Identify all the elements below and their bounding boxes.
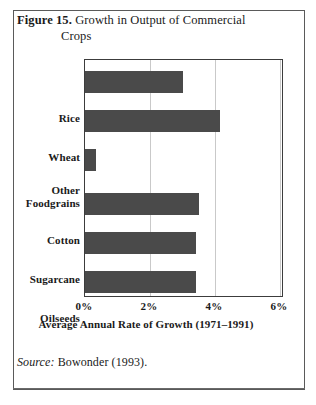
gridline-6pct — [280, 60, 281, 296]
source-citation: Bowonder (1993). — [58, 355, 148, 369]
xtick-label-0: 0% — [64, 300, 104, 312]
plot-area — [84, 59, 283, 297]
xtick-label-4: 4% — [194, 300, 234, 312]
bar-rice — [85, 71, 183, 93]
gridline-4pct — [215, 60, 216, 296]
bar-wheat — [85, 110, 220, 132]
figure-caption: Figure 15. Growth in Output of Commercia… — [17, 12, 275, 44]
category-label-sugarcane: Sugarcane — [0, 273, 80, 286]
bar-other-foodgrains — [85, 149, 96, 171]
xtick-label-2: 2% — [129, 300, 169, 312]
category-label-wheat: Wheat — [0, 151, 80, 164]
category-label-cotton: Cotton — [0, 234, 80, 247]
figure-title-line2: Crops — [61, 28, 275, 44]
category-label-rice: Rice — [0, 112, 80, 125]
category-label-other-foodgrains: Other Foodgrains — [0, 184, 80, 209]
xtick-label-6: 6% — [259, 300, 299, 312]
bar-oilseeds — [85, 271, 196, 293]
figure-title: Growth in Output of Commercial — [75, 13, 245, 27]
bottom-divider — [13, 388, 305, 389]
bar-sugarcane — [85, 232, 196, 254]
gridline-2pct — [150, 60, 151, 296]
figure-number: Figure 15. — [17, 13, 72, 27]
chart-plot-region: Rice Wheat Other Foodgrains Cotton Sugar… — [0, 48, 292, 338]
x-axis-title: Average Annual Rate of Growth (1971–1991… — [0, 318, 292, 330]
source-note: Source: Bowonder (1993). — [17, 355, 147, 370]
bar-cotton — [85, 193, 199, 215]
source-label: Source: — [17, 355, 55, 369]
